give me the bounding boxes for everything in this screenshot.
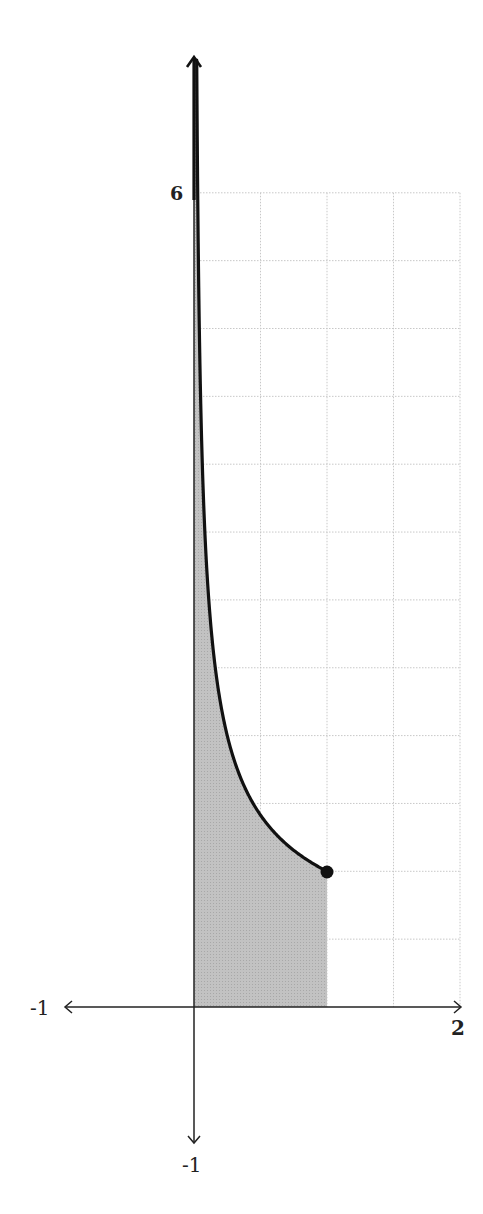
x-max-label: 2 [451, 1016, 465, 1040]
y-max-label: 6 [170, 182, 183, 204]
x-min-label: -1 [30, 996, 49, 1020]
chart-canvas: 6 -1 2 -1 [0, 0, 483, 1214]
y-min-label: -1 [182, 1153, 201, 1177]
endpoint-marker [321, 866, 334, 879]
